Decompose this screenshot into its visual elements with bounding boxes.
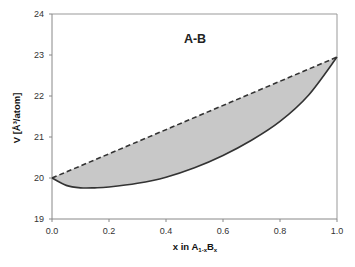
x-tick-label: 1.0	[331, 226, 344, 236]
y-tick-label: 23	[34, 50, 44, 60]
chart-title: A-B	[184, 32, 206, 46]
y-tick-label: 20	[34, 173, 44, 183]
x-tick-label: 0.4	[160, 226, 173, 236]
x-tick-label: 0.2	[103, 226, 116, 236]
y-tick-label: 21	[34, 132, 44, 142]
x-axis-ticks: 0.00.20.40.60.81.0	[46, 219, 344, 236]
x-tick-label: 0.6	[217, 226, 230, 236]
y-axis-label: V [Å³/atom]	[11, 93, 22, 144]
x-tick-label: 0.0	[46, 226, 59, 236]
x-tick-label: 0.8	[274, 226, 287, 236]
y-axis-ticks: 192021222324	[34, 9, 52, 224]
y-tick-label: 24	[34, 9, 44, 19]
x-axis-label: x in A1-xBx	[173, 241, 218, 253]
chart: A-B 192021222324 0.00.20.40.60.81.0 V [Å…	[0, 0, 355, 267]
y-tick-label: 19	[34, 214, 44, 224]
y-tick-label: 22	[34, 91, 44, 101]
